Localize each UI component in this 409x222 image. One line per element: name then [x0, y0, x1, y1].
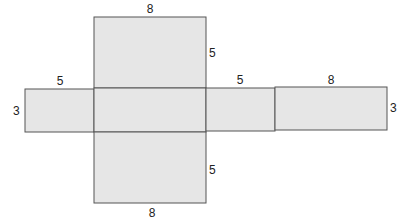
- back-height-label: 3: [390, 101, 397, 115]
- right-width-label: 5: [237, 73, 244, 87]
- top-width-label: 8: [147, 2, 154, 16]
- left-height-label: 3: [13, 104, 20, 118]
- prism-net-diagram: 8 5 5 3 5 8 3 5 8: [0, 0, 409, 222]
- center-face: [94, 88, 206, 132]
- left-width-label: 5: [57, 74, 64, 88]
- bottom-width-label: 8: [149, 206, 156, 220]
- left-face: [25, 89, 94, 132]
- back-face: [275, 87, 387, 130]
- bottom-face: [94, 132, 206, 203]
- right-face: [206, 88, 275, 131]
- back-width-label: 8: [328, 73, 335, 87]
- top-face: [94, 17, 206, 88]
- bottom-height-label: 5: [209, 163, 216, 177]
- top-height-label: 5: [209, 46, 216, 60]
